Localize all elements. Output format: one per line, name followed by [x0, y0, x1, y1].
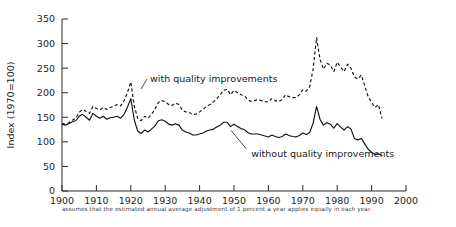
y-tick-label: 350 — [37, 13, 55, 24]
x-tick-label: 1980 — [325, 195, 349, 206]
chart-container: 0501001502002503003501900191019201930194… — [0, 0, 456, 227]
x-tick-label: 1990 — [360, 195, 384, 206]
x-tick-label: 1930 — [153, 195, 177, 206]
y-tick-label: 150 — [37, 112, 55, 123]
y-tick-label: 200 — [37, 87, 55, 98]
x-tick-label: 1910 — [84, 195, 108, 206]
y-tick-label: 250 — [37, 63, 55, 74]
annotation-without-quality: without quality improvements — [251, 148, 394, 159]
y-axis-title: Index (1970=100) — [5, 62, 16, 149]
annotation-with-quality: with quality improvements — [150, 73, 277, 84]
x-tick-label: 1970 — [291, 195, 315, 206]
x-tick-label: 1940 — [188, 195, 212, 206]
x-tick-label: 1960 — [256, 195, 280, 206]
index-line-chart: 0501001502002503003501900191019201930194… — [0, 0, 456, 227]
x-tick-label: 1950 — [222, 195, 246, 206]
y-tick-label: 50 — [43, 161, 55, 172]
x-tick-label: 2000 — [394, 195, 418, 206]
y-tick-label: 100 — [37, 136, 55, 147]
x-tick-label: 1900 — [50, 195, 74, 206]
chart-footnote: assumes that the estimated annual averag… — [62, 206, 452, 212]
x-tick-label: 1920 — [119, 195, 143, 206]
annotation-leader-2 — [231, 131, 246, 149]
y-tick-label: 300 — [37, 38, 55, 49]
annotation-leader-1 — [141, 79, 147, 89]
